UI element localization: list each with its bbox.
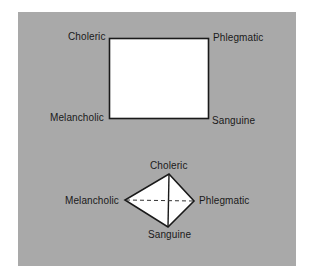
label-choleric-top: Choleric (68, 31, 105, 43)
label-sanguine-top: Sanguine (212, 115, 255, 127)
temperament-square (110, 39, 209, 119)
label-melancholic-bottom: Melancholic (65, 195, 119, 207)
label-sanguine-bottom: Sanguine (148, 229, 191, 241)
label-phlegmatic-bottom: Phlegmatic (199, 195, 249, 207)
label-choleric-bottom: Choleric (150, 160, 187, 172)
label-melancholic-top: Melancholic (50, 112, 104, 124)
label-phlegmatic-top: Phlegmatic (213, 32, 263, 44)
